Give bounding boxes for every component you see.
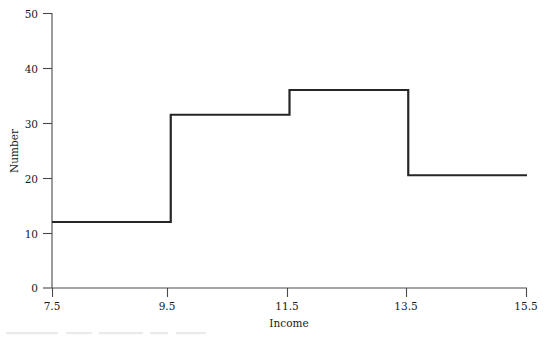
y-axis-title: Number — [8, 128, 20, 173]
y-tick-label-40: 40 — [25, 63, 38, 75]
y-tick-label-20: 20 — [25, 173, 38, 185]
scan-artifacts — [6, 332, 206, 334]
y-tick-label-30: 30 — [25, 118, 38, 130]
y-axis-tick-labels: 50 40 30 20 10 0 — [25, 8, 38, 295]
x-tick-label-7-5: 7.5 — [44, 300, 61, 312]
x-tick-label-15-5: 15.5 — [514, 300, 537, 312]
y-tick-label-10: 10 — [25, 228, 38, 240]
y-axis-ticks — [43, 14, 52, 289]
step-histogram-plot: 50 40 30 20 10 0 7.5 9.5 11.5 13.5 15.5 … — [0, 0, 549, 339]
x-axis-title: Income — [269, 317, 308, 329]
axes-group — [52, 13, 527, 288]
x-tick-label-13-5: 13.5 — [394, 300, 417, 312]
x-tick-label-9-5: 9.5 — [159, 300, 176, 312]
x-axis-ticks — [53, 288, 527, 297]
y-tick-label-50: 50 — [25, 8, 38, 20]
x-axis-tick-labels: 7.5 9.5 11.5 13.5 15.5 — [44, 300, 538, 312]
step-data-line — [52, 90, 527, 222]
x-tick-label-11-5: 11.5 — [275, 300, 298, 312]
chart-figure: 50 40 30 20 10 0 7.5 9.5 11.5 13.5 15.5 … — [0, 0, 549, 339]
y-tick-label-0: 0 — [31, 282, 38, 294]
